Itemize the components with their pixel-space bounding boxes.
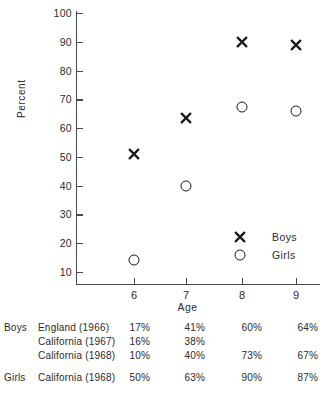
table-cell: 87% <box>297 372 318 383</box>
y-tick-label: 70 <box>0 93 72 105</box>
x-tick <box>242 278 243 285</box>
table-cell: 16% <box>129 336 150 347</box>
plot-area: 102030405060708090100 6789 Percent Age B… <box>0 0 331 315</box>
legend-label: Girls <box>272 249 296 261</box>
y-tick <box>76 71 83 72</box>
y-axis-title: Percent <box>16 79 27 118</box>
table-cell: 64% <box>297 322 318 333</box>
table-group-label: Girls <box>4 372 26 383</box>
x-tick-label: 6 <box>131 289 137 301</box>
y-tick-label: 30 <box>0 208 72 220</box>
table-cell: 63% <box>184 372 205 383</box>
x-tick-label: 9 <box>293 289 299 301</box>
table-row: BoysEngland (1966)17%41%60%64% <box>0 322 331 336</box>
x-marker <box>290 38 303 51</box>
x-marker <box>128 148 141 161</box>
y-tick <box>76 157 83 158</box>
table-source-label: California (1968) <box>38 350 115 361</box>
table-cell: 10% <box>129 350 150 361</box>
table-cell: 17% <box>129 322 150 333</box>
o-marker <box>235 250 246 261</box>
y-tick-label: 50 <box>0 151 72 163</box>
table-source-label: California (1968) <box>38 372 115 383</box>
x-axis-title-text: Age <box>178 301 198 313</box>
table-group-label: Boys <box>4 322 27 333</box>
table-cell: 40% <box>184 350 205 361</box>
x-axis-title: Age <box>0 301 331 313</box>
y-tick-label: 20 <box>0 237 72 249</box>
x-tick <box>186 278 187 285</box>
data-table: BoysEngland (1966)17%41%60%64%California… <box>0 322 331 386</box>
table-source-label: England (1966) <box>38 322 109 333</box>
table-cell: 41% <box>184 322 205 333</box>
x-marker <box>234 231 247 244</box>
table-cell: 90% <box>241 372 262 383</box>
y-tick-label: 90 <box>0 36 72 48</box>
chart-figure: 102030405060708090100 6789 Percent Age B… <box>0 0 331 401</box>
y-tick <box>76 13 83 14</box>
table-cell: 73% <box>241 350 262 361</box>
y-tick <box>76 42 83 43</box>
table-cell: 50% <box>129 372 150 383</box>
y-tick-label: 100 <box>0 7 72 19</box>
y-tick-label: 40 <box>0 180 72 192</box>
table-row: GirlsCalifornia (1968)50%63%90%87% <box>0 372 331 386</box>
x-axis-line <box>76 284 320 285</box>
o-marker <box>237 101 248 112</box>
table-row: California (1968)10%40%73%67% <box>0 350 331 364</box>
y-tick <box>76 214 83 215</box>
y-tick-label: 10 <box>0 266 72 278</box>
x-tick <box>134 278 135 285</box>
x-marker <box>180 112 193 125</box>
o-marker <box>129 255 140 266</box>
x-tick-label: 7 <box>183 289 189 301</box>
x-marker <box>236 35 249 48</box>
table-source-label: California (1967) <box>38 336 115 347</box>
x-tick <box>296 278 297 285</box>
y-tick <box>76 186 83 187</box>
o-marker <box>181 180 192 191</box>
table-cell: 60% <box>241 322 262 333</box>
y-tick-label: 80 <box>0 65 72 77</box>
table-row: California (1967)16%38% <box>0 336 331 350</box>
table-cell: 38% <box>184 336 205 347</box>
y-tick <box>76 99 83 100</box>
y-tick-label: 60 <box>0 122 72 134</box>
y-tick <box>76 243 83 244</box>
legend-label: Boys <box>272 231 297 243</box>
y-tick <box>76 128 83 129</box>
table-cell: 67% <box>297 350 318 361</box>
y-tick <box>76 272 83 273</box>
o-marker <box>291 105 302 116</box>
x-tick-label: 8 <box>239 289 245 301</box>
